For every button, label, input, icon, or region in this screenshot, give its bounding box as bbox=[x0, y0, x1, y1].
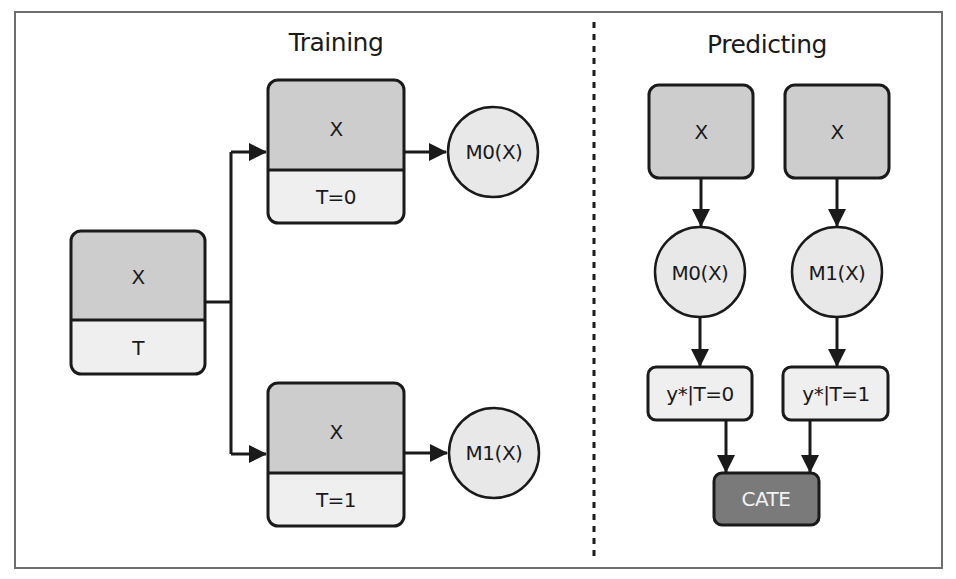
predict-m1-label: M1(X) bbox=[809, 261, 866, 285]
cate-label: CATE bbox=[742, 487, 791, 511]
predict-output-left-label: y*|T=0 bbox=[666, 382, 733, 406]
training-input-treatment-label: T bbox=[132, 336, 144, 360]
training-treated-treatment-label: T=1 bbox=[316, 488, 356, 512]
training-input-feature-label: X bbox=[131, 265, 144, 289]
predict-input-right-label: X bbox=[830, 120, 843, 144]
predict-m0-label: M0(X) bbox=[672, 261, 729, 285]
predicting-title: Predicting bbox=[707, 30, 827, 59]
training-m1-label: M1(X) bbox=[466, 441, 523, 465]
training-title: Training bbox=[289, 28, 384, 57]
diagram-canvas bbox=[0, 0, 956, 579]
split-connector bbox=[205, 152, 266, 454]
training-m0-label: M0(X) bbox=[466, 140, 523, 164]
training-control-treatment-label: T=0 bbox=[316, 185, 356, 209]
training-treated-feature-label: X bbox=[329, 420, 342, 444]
predict-output-right-label: y*|T=1 bbox=[802, 382, 869, 406]
training-control-feature-label: X bbox=[329, 117, 342, 141]
predict-input-left-label: X bbox=[694, 120, 707, 144]
